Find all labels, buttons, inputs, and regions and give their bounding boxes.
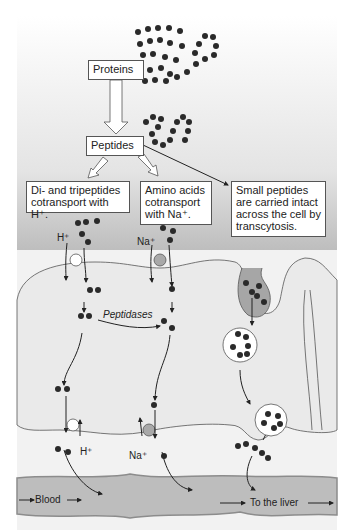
epithelial-cell-layer <box>17 258 337 440</box>
peptides-label: Peptides <box>91 139 134 151</box>
di-tri-line2: cotransport with H⁺. <box>31 196 125 220</box>
amino-line2: cotransport <box>145 196 207 208</box>
na-cotransporter-apical <box>154 254 166 266</box>
transcytosis-line4: transcytosis. <box>236 220 321 232</box>
blood-label: Blood <box>35 494 61 505</box>
h-cotransporter-apical <box>70 254 82 266</box>
proteins-box: Proteins <box>88 60 144 80</box>
to-liver-label: To the liver <box>250 497 298 508</box>
transcytosis-box: Small peptides are carried intact across… <box>231 181 326 237</box>
digestion-absorption-diagram: Proteins Peptides Di- and tripeptides co… <box>0 0 354 532</box>
di-tripeptide-box: Di- and tripeptides cotransport with H⁺. <box>26 181 130 213</box>
transcytosis-line2: are carried intact <box>236 196 321 208</box>
amino-line3: with Na⁺. <box>145 208 207 220</box>
diagram-canvas <box>0 0 354 532</box>
h-transporter-basal <box>67 419 79 431</box>
h-ion-apical-label: H⁺ <box>57 232 69 243</box>
proteins-label: Proteins <box>93 63 133 75</box>
na-ion-apical-label: Na⁺ <box>137 236 155 247</box>
amino-line1: Amino acids <box>145 184 207 196</box>
h-ion-basal-label: H⁺ <box>80 446 92 457</box>
na-ion-basal-label: Na⁺ <box>129 450 147 461</box>
transcytosis-line1: Small peptides <box>236 184 321 196</box>
exocytic-vesicle <box>255 404 287 436</box>
transcytosis-line3: across the cell by <box>236 208 321 220</box>
peptidases-label: Peptidases <box>103 309 152 320</box>
di-tri-line1: Di- and tripeptides <box>31 184 125 196</box>
peptides-box: Peptides <box>86 136 144 156</box>
amino-acid-box: Amino acids cotransport with Na⁺. <box>140 181 212 225</box>
blood-vessel <box>17 474 337 518</box>
na-transporter-basal <box>143 424 155 436</box>
